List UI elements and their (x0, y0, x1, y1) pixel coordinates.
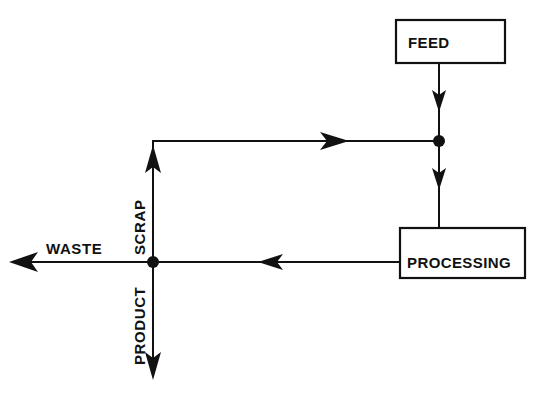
scrap-stream-label: SCRAP (131, 199, 148, 255)
feed-box: FEED (396, 20, 505, 63)
processing-box: PROCESSING (400, 228, 525, 278)
processing-box-label: PROCESSING (407, 254, 511, 271)
waste-stream-label: WASTE (46, 240, 102, 257)
junction-to-processing-arrow (432, 141, 446, 228)
scrap-recycle-arrow (145, 132, 439, 262)
feed-to-junction-arrow (432, 63, 446, 141)
feed-box-label: FEED (408, 34, 450, 51)
process-flow-diagram: FEED PROCESSING WAST (0, 0, 547, 418)
flow-diagram-canvas: FEED PROCESSING WAST (0, 0, 547, 418)
product-stream-label: PRODUCT (131, 287, 148, 365)
processing-to-split-arrow (153, 254, 400, 270)
